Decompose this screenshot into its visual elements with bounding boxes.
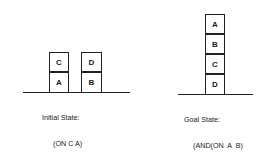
table-surface-goal [178, 94, 253, 95]
initial-state-title: Initial State: [42, 114, 103, 123]
block-c-initial: C [49, 52, 69, 72]
block-label: D [89, 58, 95, 67]
block-a-goal: A [205, 14, 225, 34]
block-label: C [212, 60, 218, 69]
initial-state-predicate: (ON C A) [42, 140, 103, 149]
goal-state-predicate: (AND(ON A B) [184, 142, 249, 151]
block-c-goal: C [205, 54, 225, 74]
initial-state-caption: Initial State: (ON C A) (ON D B) (CLEART… [42, 97, 103, 160]
block-a-initial: A [49, 72, 69, 93]
block-label: A [56, 78, 62, 87]
table-surface-initial [23, 92, 130, 93]
block-label: C [56, 58, 62, 67]
block-b-goal: B [205, 34, 225, 54]
block-label: B [89, 78, 95, 87]
block-label: A [212, 20, 218, 29]
block-d-initial: D [81, 52, 102, 72]
block-d-goal: D [205, 74, 225, 95]
goal-state-title: Goal State: [184, 116, 249, 125]
block-b-initial: B [81, 72, 102, 93]
block-label: D [212, 80, 218, 89]
goal-state-caption: Goal State: (AND(ON A B) (ON B C) (ON C … [184, 99, 249, 160]
block-label: B [212, 40, 218, 49]
